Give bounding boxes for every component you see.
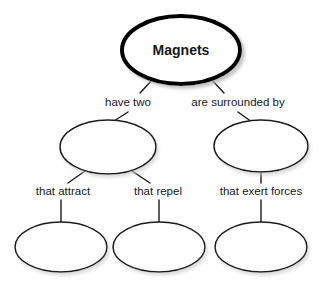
node-blank-bottom-right[interactable] <box>215 222 307 272</box>
link-label-that-exert-forces: that exert forces <box>220 185 303 197</box>
diagram-canvas: Magnets have two are surrounded by that … <box>0 0 325 289</box>
connector-blank-mid-left-to-that-repel <box>132 171 150 183</box>
link-label-have-two: have two <box>105 96 151 108</box>
link-label-that-attract: that attract <box>36 185 91 197</box>
node-blank-bottom-left[interactable] <box>15 222 107 272</box>
concept-map-diagram: Magnets have two are surrounded by that … <box>0 0 325 289</box>
node-root-magnets[interactable]: Magnets <box>122 16 240 84</box>
node-root-label: Magnets <box>153 42 210 58</box>
node-blank-bottom-middle[interactable] <box>113 222 205 272</box>
connector-blank-mid-left-to-that-attract <box>68 171 85 183</box>
link-label-that-repel: that repel <box>134 185 182 197</box>
connector-root-to-are-surrounded-by <box>211 79 224 93</box>
link-label-are-surrounded-by: are surrounded by <box>191 96 285 108</box>
node-blank-mid-right[interactable] <box>214 120 308 172</box>
node-blank-mid-left[interactable] <box>60 120 156 174</box>
